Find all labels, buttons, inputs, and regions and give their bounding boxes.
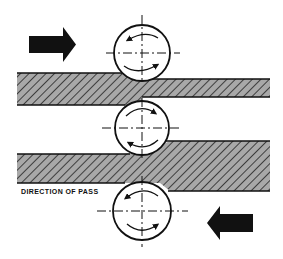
rolling-mill-diagram — [0, 0, 283, 259]
arrow-left-icon — [207, 206, 253, 240]
upper-roll — [106, 15, 180, 82]
arrow-right-icon — [29, 27, 76, 62]
direction-of-pass-label: DIRECTION OF PASS — [21, 188, 98, 195]
